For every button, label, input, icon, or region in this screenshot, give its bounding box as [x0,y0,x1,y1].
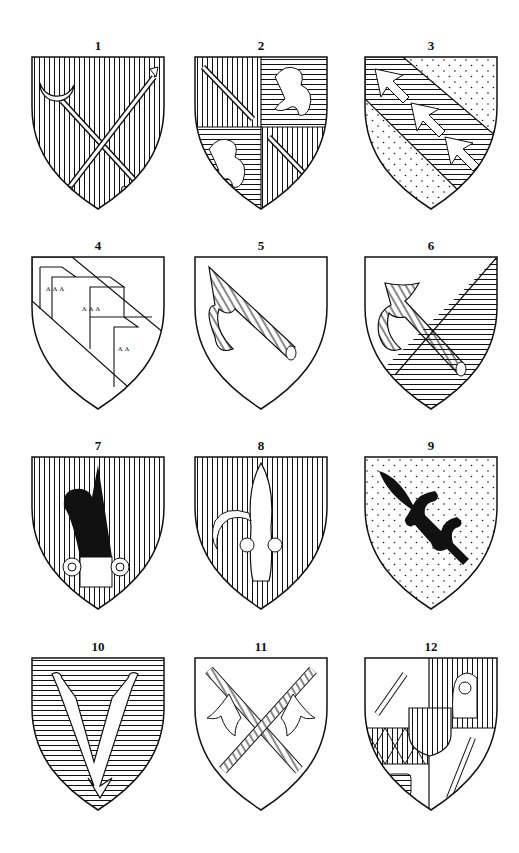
shield-4-chevrons-bend: ʌ ʌ ʌ ʌ ʌ ʌ ʌ ʌ [32,257,164,409]
shield-number: 4 [18,238,178,254]
shield-cell-6: 6 [351,238,511,413]
shield-1-crescent-and-arrow [32,57,164,209]
shield-7-plume [32,457,164,609]
shield-6-per-bend-pick [365,257,497,409]
shield-number: 8 [181,438,341,454]
shield-8-white-lily [195,457,327,609]
shield-number: 6 [351,238,511,254]
shield-number: 7 [18,438,178,454]
shield-11-crossed-banners [195,658,327,810]
shield-cell-5: 5 [181,238,341,413]
shield-number: 9 [351,438,511,454]
shield-9-black-lily [365,457,497,609]
shield-5-pick [195,257,327,409]
shield-number: 12 [351,639,511,655]
shield-cell-11: 11 [181,639,341,814]
shield-number: 10 [18,639,178,655]
shield-cell-9: 9 [351,438,511,613]
shield-cell-8: 8 [181,438,341,613]
svg-text:ʌ ʌ ʌ: ʌ ʌ ʌ [82,303,101,313]
shield-10-forked-charge [32,658,164,810]
shield-2-quarterly-lions-arrows [195,57,327,209]
shield-cell-4: 4 ʌ ʌ ʌ ʌ ʌ ʌ ʌ ʌ [18,238,178,413]
shield-number: 2 [181,38,341,54]
svg-text:ʌ ʌ: ʌ ʌ [118,343,130,353]
shield-3-bend-arrowheads [365,57,497,209]
shield-number: 3 [351,38,511,54]
shield-cell-1: 1 [18,38,178,213]
shield-number: 11 [181,639,341,655]
shield-cell-10: 10 [18,639,178,814]
shield-number: 5 [181,238,341,254]
shield-number: 1 [18,38,178,54]
shield-cell-2: 2 [181,38,341,213]
shield-cell-7: 7 [18,438,178,613]
shield-cell-3: 3 [351,38,511,213]
svg-text:ʌ ʌ ʌ: ʌ ʌ ʌ [46,283,65,293]
shield-12-composite-arms [365,658,497,810]
shield-cell-12: 12 [351,639,511,814]
